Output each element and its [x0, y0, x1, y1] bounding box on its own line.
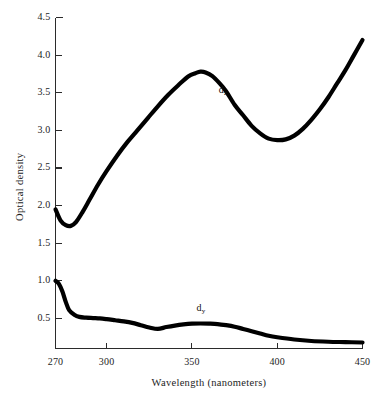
series-paths — [56, 40, 363, 342]
y-axis-title: Optical density — [14, 153, 25, 221]
y-tick-label: 4.0 — [37, 49, 50, 60]
y-tick-label: 0.5 — [37, 312, 50, 323]
series-line-d_z — [56, 40, 363, 226]
x-axis-title: Wavelength (nanometers) — [16, 377, 380, 388]
y-tick-label: 3.0 — [37, 124, 50, 135]
series-line-d_y — [56, 281, 363, 343]
y-tick-label: 3.5 — [37, 86, 50, 97]
series-label-base: d — [196, 302, 201, 313]
series-label-base: d — [219, 84, 224, 95]
series-label-d_y: dy — [196, 302, 205, 313]
x-tick-label: 270 — [36, 356, 76, 367]
x-tick-label: 300 — [87, 356, 127, 367]
y-tick-label: 2.0 — [37, 199, 50, 210]
series-label-subscript: y — [202, 307, 206, 315]
y-tick-label: 1.5 — [37, 237, 50, 248]
plot-area-svg — [0, 0, 380, 397]
series-label-subscript: z — [224, 89, 227, 97]
x-tick-label: 400 — [257, 356, 297, 367]
series-label-d_z: dz — [219, 84, 227, 95]
tick-marks — [56, 18, 363, 349]
axis-frame — [56, 18, 363, 349]
x-tick-label: 450 — [343, 356, 380, 367]
chart-figure: 0.51.01.52.02.53.03.54.04.5 270300350400… — [0, 0, 380, 397]
y-tick-label: 1.0 — [37, 274, 50, 285]
y-tick-label: 4.5 — [37, 11, 50, 22]
y-tick-label: 2.5 — [37, 161, 50, 172]
x-tick-label: 350 — [172, 356, 212, 367]
